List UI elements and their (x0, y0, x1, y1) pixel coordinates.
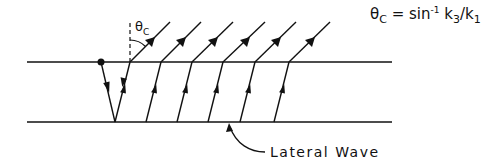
upper-arrowheads (145, 37, 315, 47)
critical-angle-formula: θC = sin-1 k3/k1 (370, 5, 481, 26)
critical-angle-label: θC (135, 19, 149, 37)
lateral-wave-pointer-arrowhead (226, 123, 233, 132)
lower-arrowheads (120, 83, 287, 93)
incident-ray (101, 62, 115, 122)
ray-6 (274, 22, 330, 122)
refracted-rays (0, 0, 330, 122)
lateral-wave-pointer (230, 127, 265, 152)
critical-angle-arc (130, 40, 146, 47)
ray-4 (208, 22, 265, 122)
lateral-wave-label: Lateral Wave (270, 144, 380, 160)
